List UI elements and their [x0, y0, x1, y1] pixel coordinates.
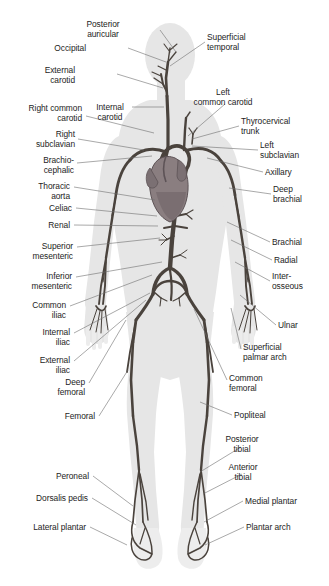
label-thyrocervical-trunk: Thyrocervical trunk [241, 117, 290, 136]
label-peroneal: Peroneal [56, 472, 89, 482]
label-radial: Radial [274, 256, 297, 266]
label-axillary: Axillary [265, 168, 292, 178]
label-superficial-palmar-arch: Superficial palmar arch [243, 343, 287, 362]
label-plantar-arch: Plantar arch [246, 523, 291, 533]
arterial-diagram-page: Posterior auricularOccipitalExternal car… [0, 0, 329, 586]
label-internal-iliac: Internal iliac [42, 328, 70, 347]
label-thoracic-aorta: Thoracic aorta [38, 182, 70, 201]
leader-line-plantar-arch [205, 527, 244, 545]
leader-line-dorsalis-pedis [92, 498, 136, 525]
leader-line-femoral [99, 370, 128, 416]
label-deep-femoral: Deep femoral [57, 378, 85, 397]
label-common-iliac: Common iliac [32, 301, 66, 320]
label-posterior-auricular: Posterior auricular [43, 20, 163, 39]
label-external-iliac: External iliac [40, 356, 70, 375]
label-internal-carotid: Internal carotid [50, 103, 170, 122]
label-posterior-tibial: Posterior tibial [182, 435, 302, 454]
label-medial-plantar: Medial plantar [245, 497, 297, 507]
label-ulnar: Ulnar [278, 321, 298, 331]
label-anterior-tibial: Anterior tibial [183, 463, 303, 482]
leader-line-lateral-plantar [90, 527, 127, 545]
label-dorsalis-pedis: Dorsalis pedis [36, 494, 88, 504]
label-renal: Renal [48, 221, 70, 231]
label-inferior-mesenteric: Inferior mesenteric [32, 272, 72, 291]
label-celiac: Celiac [49, 204, 72, 214]
label-brachial: Brachial [272, 238, 302, 248]
label-superficial-temporal: Superficial temporal [207, 33, 246, 52]
label-deep-brachial: Deep brachial [273, 185, 302, 204]
label-femoral: Femoral [65, 412, 95, 422]
leader-line-peroneal [93, 476, 133, 506]
label-brachiocephalic: Brachio- cephalic [43, 156, 74, 175]
label-interosseous: Inter- osseous [272, 272, 303, 291]
label-occipital: Occipital [54, 44, 86, 54]
leader-line-medial-plantar [204, 501, 243, 522]
label-left-common-carotid: Left common carotid [163, 88, 283, 107]
label-external-carotid: External carotid [45, 66, 75, 85]
label-lateral-plantar: Lateral plantar [33, 523, 86, 533]
label-superior-mesenteric: Superior mesenteric [33, 242, 73, 261]
label-popliteal: Popliteal [234, 411, 266, 421]
label-common-femoral: Common femoral [229, 374, 263, 393]
label-left-subclavian: Left subclavian [260, 141, 299, 160]
label-right-subclavian: Right subclavian [36, 130, 75, 149]
